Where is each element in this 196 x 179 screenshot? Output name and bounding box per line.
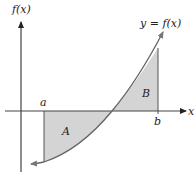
function-curve-left-tail <box>31 162 44 164</box>
curve-label: y = f(x) <box>139 17 181 30</box>
area-diagram: f(x) x y = f(x) a b A B <box>0 0 196 179</box>
x-axis-label: x <box>188 105 195 118</box>
y-axis-label: f(x) <box>11 3 31 16</box>
region-b-label: B <box>141 87 150 100</box>
region-a-label: A <box>61 125 70 138</box>
point-a-label: a <box>40 96 47 109</box>
region-a-shading <box>44 111 112 162</box>
point-b-label: b <box>154 115 161 128</box>
